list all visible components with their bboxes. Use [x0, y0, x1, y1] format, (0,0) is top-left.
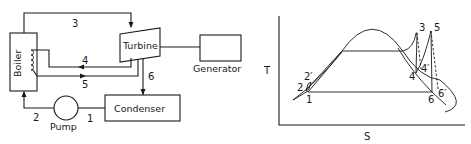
ts-point-4: 4: [409, 71, 415, 82]
arrow-icon: [22, 91, 27, 97]
generator-box: [200, 35, 241, 61]
generator-label: Generator: [193, 63, 241, 74]
state-4-label: 4: [82, 55, 88, 66]
ts-point-6: 6: [428, 94, 434, 105]
state-6-label: 6: [148, 71, 154, 82]
state-3-label: 3: [72, 18, 78, 29]
ts-point-4p: 4′: [421, 63, 430, 74]
axis-label-s: S: [364, 131, 370, 142]
liquid-line-2: [308, 52, 342, 92]
rankine-reheat-cycle-figure: Boiler 3 Turbine Generator 4 5 6 C: [0, 0, 471, 144]
state-1-label: 1: [87, 113, 93, 124]
arrow-icon: [129, 22, 134, 28]
line-2-feedwater: [24, 92, 54, 108]
expansion-3-4: [416, 33, 417, 73]
condenser-label: Condenser: [114, 103, 165, 114]
ts-point-5: 5: [434, 22, 440, 33]
boiler-label: Boiler: [12, 50, 23, 77]
pump-label: Pump: [50, 121, 77, 132]
arrow-icon: [80, 74, 86, 79]
axis-label-t: T: [263, 65, 271, 76]
ts-point-2: 2: [297, 82, 303, 93]
arrow-icon: [141, 89, 146, 95]
turbine-label: Turbine: [122, 40, 158, 51]
superheat-to-3: [403, 33, 417, 51]
pump-circle: [54, 96, 78, 120]
state-2-label: 2: [33, 112, 39, 123]
ts-point-6p: 6′: [438, 88, 447, 99]
ts-point-1: 1: [306, 94, 312, 105]
ts-diagram: T S 1 2 2′ 3 4 4′ 5 6: [263, 16, 465, 142]
plant-schematic: Boiler 3 Turbine Generator 4 5 6 C: [10, 13, 241, 132]
state-5-label: 5: [82, 79, 88, 90]
ts-point-2p: 2′: [304, 71, 313, 82]
ts-point-3: 3: [419, 22, 425, 33]
